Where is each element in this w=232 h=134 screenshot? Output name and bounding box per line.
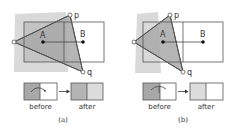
after-box-a [71, 83, 103, 100]
panel-a: A B p q before after (a) [12, 11, 104, 124]
label-B-a: B [80, 30, 86, 39]
caption-b: (b) [178, 116, 188, 124]
label-p-a: p [74, 11, 79, 20]
vertex-p-a [68, 13, 72, 17]
transition-arrow-b [178, 90, 189, 94]
panel-b: A B p q before after (b) [132, 11, 223, 124]
vertex-left-a [12, 40, 16, 44]
vertex-q-b [181, 70, 185, 74]
point-B-b [201, 40, 205, 44]
before-box-a [24, 83, 57, 100]
before-label-b: before [148, 103, 171, 111]
after-box-b [190, 83, 223, 100]
label-q-b: q [187, 68, 192, 77]
vertex-q-a [81, 70, 85, 74]
label-q-a: q [87, 68, 92, 77]
label-p-b: p [174, 11, 179, 20]
caption-a: (a) [58, 116, 68, 124]
point-A-a [41, 40, 45, 44]
arrow-right-icon [185, 90, 189, 94]
label-A-a: A [40, 31, 46, 40]
after-label-a: after [79, 103, 96, 111]
arrow-right-icon [67, 90, 71, 94]
diagram-canvas: A B p q before after (a) [0, 0, 232, 134]
label-B-b: B [200, 30, 206, 39]
transition-arrow-a [59, 90, 70, 94]
before-label-a: before [29, 103, 52, 111]
before-box-b [143, 83, 176, 100]
point-A-b [161, 40, 165, 44]
label-A-b: A [160, 30, 166, 39]
vertex-left-b [132, 40, 136, 44]
after-label-b: after [198, 103, 215, 111]
point-B-a [81, 40, 85, 44]
vertex-p-b [168, 13, 172, 17]
